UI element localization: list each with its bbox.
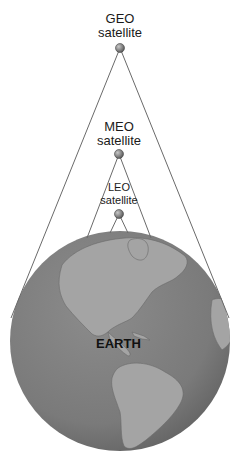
meo-label-line1: MEO: [79, 120, 159, 134]
meo-satellite-icon: [115, 150, 124, 159]
geo-label-line2: satellite: [80, 26, 160, 40]
meo-satellite-label: MEO satellite: [79, 120, 159, 148]
geo-satellite-icon: [116, 44, 125, 53]
diagram-canvas: [0, 0, 240, 469]
leo-satellite-label: LEO satellite: [79, 181, 159, 207]
geo-label-line1: GEO: [80, 12, 160, 26]
earth-label: EARTH: [96, 336, 141, 351]
geo-satellite-label: GEO satellite: [80, 12, 160, 40]
leo-label-line1: LEO: [79, 181, 159, 194]
meo-label-line2: satellite: [79, 134, 159, 148]
leo-label-line2: satellite: [79, 194, 159, 207]
leo-satellite-icon: [115, 210, 124, 219]
